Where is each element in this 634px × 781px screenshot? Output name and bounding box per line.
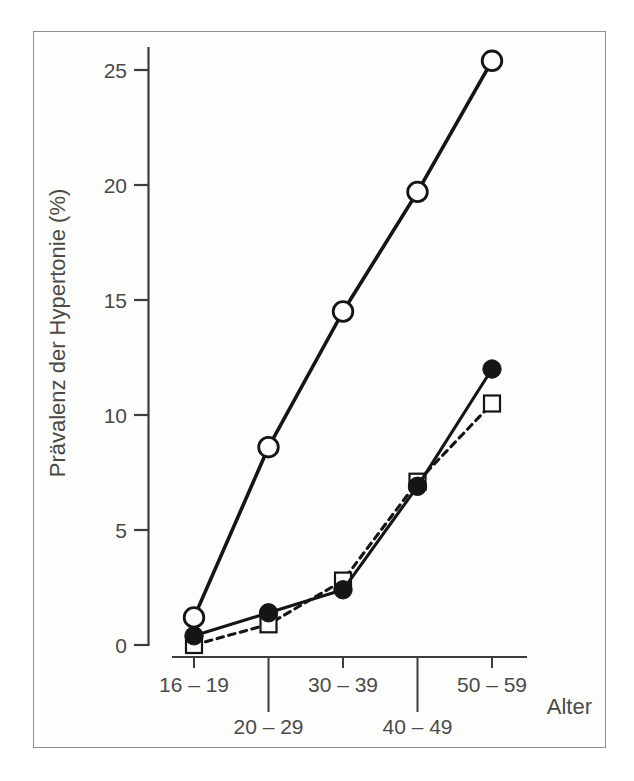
y-axis-title: Prävalenz der Hypertonie (%) xyxy=(45,189,70,478)
x-axis: 16 – 1920 – 2930 – 3940 – 4950 – 59Alter xyxy=(159,657,592,738)
x-axis-title: Alter xyxy=(547,694,592,719)
figure: 0510152025Prävalenz der Hypertonie (%)16… xyxy=(0,0,634,781)
data-point-filled-circle xyxy=(334,581,352,599)
x-tick-label: 20 – 29 xyxy=(233,715,303,738)
y-tick-label: 15 xyxy=(104,289,127,312)
series-open-circle xyxy=(184,51,502,627)
y-tick-label: 25 xyxy=(104,59,127,82)
data-point-open-square xyxy=(484,396,500,412)
data-point-open-circle xyxy=(259,437,279,457)
data-point-filled-circle xyxy=(259,604,277,622)
x-tick-label: 40 – 49 xyxy=(382,715,452,738)
series-open-circle-line xyxy=(194,61,492,618)
data-point-filled-circle xyxy=(408,477,426,495)
hypertension-prevalence-line-chart: 0510152025Prävalenz der Hypertonie (%)16… xyxy=(0,0,634,781)
y-tick-label: 10 xyxy=(104,404,127,427)
data-point-open-circle xyxy=(408,182,428,202)
y-axis: 0510152025Prävalenz der Hypertonie (%) xyxy=(45,47,149,657)
y-tick-label: 20 xyxy=(104,174,127,197)
data-point-open-circle xyxy=(333,302,353,322)
y-tick-label: 5 xyxy=(115,519,127,542)
x-tick-label: 16 – 19 xyxy=(159,673,229,696)
data-point-filled-circle xyxy=(185,627,203,645)
data-point-filled-circle xyxy=(483,360,501,378)
series-filled-circle xyxy=(185,360,501,645)
y-tick-label: 0 xyxy=(115,634,127,657)
x-tick-label: 50 – 59 xyxy=(457,673,527,696)
data-point-open-circle xyxy=(482,51,502,71)
x-tick-label: 30 – 39 xyxy=(308,673,378,696)
data-point-open-circle xyxy=(184,608,204,628)
